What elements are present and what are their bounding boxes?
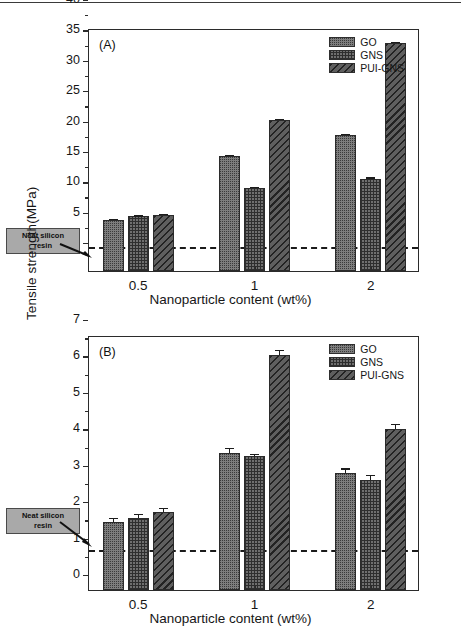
bar-gns xyxy=(128,216,149,271)
bar-gns xyxy=(360,480,381,590)
y-tick-label: 5 xyxy=(73,385,80,399)
error-bar-cap xyxy=(250,187,259,188)
x-tick-label: 2 xyxy=(349,278,393,293)
bar-gns xyxy=(244,188,265,271)
error-bar-cap xyxy=(134,514,143,515)
x-tick-mark xyxy=(138,266,139,271)
error-bar-cap xyxy=(366,475,375,476)
bar-go xyxy=(103,220,124,271)
error-bar xyxy=(269,119,290,120)
y-tick-label: 10 xyxy=(66,174,80,188)
bar-go xyxy=(103,522,124,590)
figure-root: Elastic modulus(MPa) 0510152025303540 0.… xyxy=(0,0,461,637)
error-bar-cap xyxy=(341,468,350,469)
legend-item-go: GO xyxy=(329,36,404,47)
bar-pui-gns xyxy=(385,429,406,590)
error-bar-cap xyxy=(159,508,168,509)
x-tick-mark xyxy=(138,585,139,590)
legend-a: GO GNS PUI-GNS xyxy=(329,36,404,75)
legend-item-pui-gns: PUI-GNS xyxy=(329,62,404,73)
error-bar xyxy=(244,187,265,188)
bar-pui-gns xyxy=(269,120,290,271)
error-bar xyxy=(153,214,174,215)
annotation-arrow-a xyxy=(58,240,104,266)
y-tick-label: 2 xyxy=(73,494,80,508)
plot-area-b: 0.512 (B) GO GNS PUI-GNS xyxy=(88,336,419,591)
y-tick-minor-mark xyxy=(85,15,88,16)
bar-gns xyxy=(360,179,381,271)
error-bar-cap xyxy=(275,119,284,120)
error-bar-cap xyxy=(366,177,375,178)
error-bar xyxy=(269,350,290,355)
legend-item-pui-gns: PUI-GNS xyxy=(329,369,404,380)
bar-pui-gns xyxy=(153,512,174,590)
y-tick-label: 30 xyxy=(66,53,80,67)
y-tick-mark xyxy=(83,320,88,321)
error-bar xyxy=(128,514,149,518)
x-tick-mark xyxy=(371,585,372,590)
bar-go xyxy=(219,156,240,271)
y-tick-label: 40 xyxy=(66,0,80,6)
error-bar-cap xyxy=(225,448,234,449)
legend-label-gns: GNS xyxy=(360,356,383,368)
error-bar-cap xyxy=(109,518,118,519)
legend-item-gns: GNS xyxy=(329,49,404,60)
bar-go xyxy=(335,135,356,271)
x-tick-label: 0.5 xyxy=(116,597,160,612)
bar-go xyxy=(219,453,240,590)
y-tick-label: 25 xyxy=(66,83,80,97)
error-bar-cap xyxy=(275,350,284,351)
x-tick-label: 0.5 xyxy=(116,278,160,293)
y-tick-label: 6 xyxy=(73,348,80,362)
y-tick-mark xyxy=(83,0,88,1)
legend-item-gns: GNS xyxy=(329,356,404,367)
legend-swatch-gns-icon xyxy=(329,357,355,367)
bar-gns xyxy=(244,456,265,590)
error-bar xyxy=(360,475,381,479)
legend-label-pui-gns: PUI-GNS xyxy=(360,62,404,74)
bar-gns xyxy=(128,518,149,590)
plot-area-a: 0.512 (A) GO GNS PUI-GNS xyxy=(88,29,419,272)
error-bar-cap xyxy=(134,215,143,216)
error-bar-cap xyxy=(159,214,168,215)
error-bar-cap xyxy=(391,424,400,425)
x-tick-mark xyxy=(255,585,256,590)
y-tick-label: 0 xyxy=(73,567,80,581)
y-tick-label: 35 xyxy=(66,22,80,36)
y-tick-label: 15 xyxy=(66,144,80,158)
bar-pui-gns xyxy=(385,43,406,271)
bar-pui-gns xyxy=(269,355,290,590)
legend-label-go: GO xyxy=(360,343,376,355)
legend-swatch-pui-gns-icon xyxy=(329,370,355,380)
error-bar xyxy=(385,424,406,429)
y-tick-label: 20 xyxy=(66,114,80,128)
x-tick-mark xyxy=(255,266,256,271)
error-bar xyxy=(360,177,381,178)
error-bar xyxy=(335,468,356,472)
error-bar xyxy=(153,508,174,513)
legend-swatch-gns-icon xyxy=(329,50,355,60)
panel-tag-a: (A) xyxy=(99,38,116,52)
x-tick-mark xyxy=(371,266,372,271)
error-bar xyxy=(219,155,240,156)
bar-pui-gns xyxy=(153,215,174,271)
error-bar-cap xyxy=(341,134,350,135)
legend-item-go: GO xyxy=(329,343,404,354)
annotation-arrow-b xyxy=(58,518,104,554)
legend-label-gns: GNS xyxy=(360,49,383,61)
error-bar xyxy=(335,134,356,135)
x-tick-label: 1 xyxy=(233,597,277,612)
legend-swatch-pui-gns-icon xyxy=(329,63,355,73)
legend-b: GO GNS PUI-GNS xyxy=(329,343,404,382)
error-bar xyxy=(128,215,149,216)
x-axis-label-b: Nanoparticle content (wt%) xyxy=(0,611,461,626)
error-bar-cap xyxy=(109,219,118,220)
x-tick-label: 2 xyxy=(349,597,393,612)
bar-go xyxy=(335,473,356,590)
legend-swatch-go-icon xyxy=(329,37,355,47)
y-axis-label-b: Tensile strength(MPa) xyxy=(24,187,39,320)
y-axis-ticks-a: 0510152025303540 xyxy=(58,0,88,243)
y-tick-label: 5 xyxy=(73,205,80,219)
error-bar xyxy=(103,219,124,220)
annotation-line2-b: resin xyxy=(34,521,52,530)
